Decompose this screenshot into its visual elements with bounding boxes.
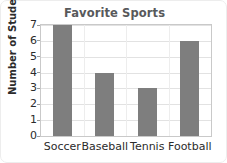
y-axis-tick-label: 1 [23,114,37,126]
bar-football [180,41,199,136]
x-axis-tick-label: Football [158,139,222,155]
category-separator [126,25,127,136]
y-axis-tick-labels: 01234567 [23,24,37,137]
y-axis-tick-label: 6 [23,35,37,47]
y-axis-title: Number of Students [6,0,20,95]
bar-baseball [95,73,114,136]
plot-area [40,24,212,137]
y-axis-tick-label: 5 [23,51,37,63]
y-axis-tick-label: 7 [23,19,37,31]
bar-chart-card: Favorite Sports Number of Students 01234… [0,0,227,163]
y-axis-tick-label: 2 [23,98,37,110]
bar-soccer [53,25,72,136]
category-separator [84,25,85,136]
y-axis-tick-label: 3 [23,82,37,94]
y-axis-tick-label: 4 [23,67,37,79]
x-axis-tick-labels: SoccerBaseballTennisFootball [40,139,212,155]
category-separator [169,25,170,136]
bar-tennis [138,88,157,136]
